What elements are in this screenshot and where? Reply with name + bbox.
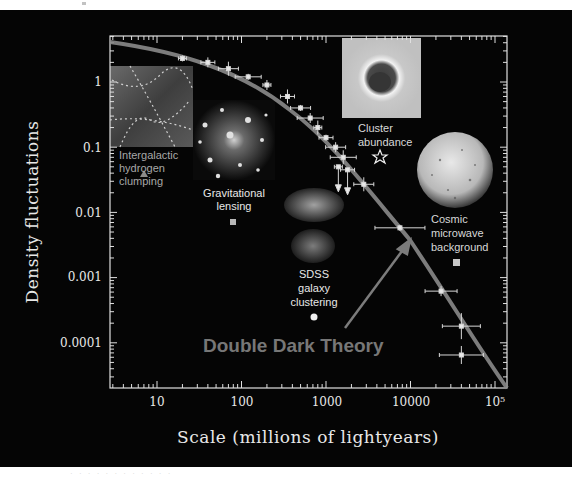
x-tick-label: 1000 bbox=[312, 395, 343, 409]
y-tick-label: 1 bbox=[94, 75, 102, 89]
label-sdss: SDSSgalaxyclustering bbox=[290, 268, 337, 308]
lensing-square-marker bbox=[230, 219, 236, 225]
theory-label: Double Dark Theory bbox=[203, 335, 384, 356]
gravitational-lensing-image bbox=[193, 100, 275, 180]
chart: Intergalactichydrogenclumping Gravitatio… bbox=[0, 0, 582, 479]
y-tick-labels: 1 0.1 0.01 0.001 0.0001 bbox=[60, 75, 102, 350]
x-tick-label: 10⁵ bbox=[485, 395, 505, 409]
cmb-sphere-image bbox=[417, 132, 493, 208]
y-tick-label: 0.0001 bbox=[60, 336, 102, 350]
x-tick-label: 10000 bbox=[392, 395, 430, 409]
y-tick-label: 0.01 bbox=[75, 206, 102, 220]
y-axis-title: Density fluctuations bbox=[22, 121, 42, 304]
label-cmb: Cosmicmicrowavebackground bbox=[431, 213, 489, 253]
theory-arrow bbox=[345, 240, 410, 328]
cluster-star-marker bbox=[373, 150, 387, 163]
label-lensing: Gravitationallensing bbox=[203, 187, 265, 212]
y-tick-label: 0.001 bbox=[68, 270, 102, 284]
label-hydrogen: Intergalactichydrogenclumping bbox=[119, 149, 179, 187]
figure-caption: · · · · · · · · · · · · bbox=[70, 469, 172, 478]
cmb-square-marker bbox=[453, 259, 460, 266]
x-tick-labels: 10 100 1000 10000 10⁵ bbox=[149, 395, 505, 409]
y-tick-label: 0.1 bbox=[83, 141, 102, 155]
x-axis-title: Scale (millions of lightyears) bbox=[177, 427, 439, 447]
x-tick-label: 100 bbox=[231, 395, 254, 409]
hydrogen-simulation-image bbox=[110, 66, 193, 147]
sdss-circle-marker bbox=[311, 314, 318, 321]
x-tick-label: 10 bbox=[149, 395, 164, 409]
label-cluster: Clusterabundance bbox=[358, 122, 412, 148]
cluster-xray-image bbox=[342, 38, 421, 118]
sdss-wedge-image bbox=[284, 188, 344, 263]
